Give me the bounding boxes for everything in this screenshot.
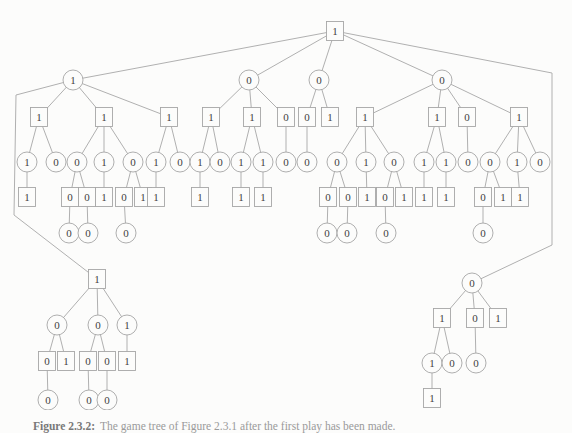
circle-node-q2a: 0 <box>466 353 486 373</box>
square-node-a1x1: 1 <box>19 188 36 207</box>
node-value-label: 0 <box>177 156 183 168</box>
square-node-d4x1: 0 <box>475 188 492 207</box>
circle-node-d2y: 1 <box>436 152 456 172</box>
square-node-c2: 1 <box>322 108 339 127</box>
node-value-label: 0 <box>304 156 310 168</box>
node-value-label: 0 <box>283 156 289 168</box>
square-node-d1x2: 0 <box>340 188 357 207</box>
tree-edge <box>442 80 519 117</box>
circle-node-a1x: 1 <box>17 152 37 172</box>
square-node-d2x1: 1 <box>416 188 433 207</box>
square-node-d4x2: 1 <box>495 188 512 207</box>
node-value-label: 0 <box>334 156 340 168</box>
square-node-q3: 1 <box>490 309 507 328</box>
square-node-m1: 1 <box>89 270 106 289</box>
circle-node-d1z1c: 0 <box>376 223 396 243</box>
tree-edge <box>335 31 442 80</box>
circle-node-a3y: 0 <box>170 152 190 172</box>
square-node-m1b2: 0 <box>99 352 116 371</box>
node-value-label: 0 <box>325 191 331 203</box>
node-value-label: 1 <box>153 191 159 203</box>
square-node-q1a1: 1 <box>424 389 441 408</box>
node-value-label: 0 <box>344 227 350 239</box>
square-node-d1z1: 0 <box>377 188 394 207</box>
node-value-label: 0 <box>123 227 129 239</box>
circle-node-d1y: 1 <box>356 152 376 172</box>
node-value-label: 0 <box>449 357 455 369</box>
square-node-m1a1: 0 <box>39 352 56 371</box>
node-value-label: 1 <box>24 191 30 203</box>
node-value-label: 0 <box>464 111 470 123</box>
figure-caption: Figure 2.3.2:The game tree of Figure 2.3… <box>33 419 553 433</box>
node-value-label: 0 <box>121 191 127 203</box>
circle-node-d4y: 1 <box>507 152 527 172</box>
node-value-label: 0 <box>469 277 475 289</box>
node-value-label: 0 <box>472 312 478 324</box>
square-node-d1: 1 <box>357 108 374 127</box>
square-node-d1z2: 1 <box>396 188 413 207</box>
square-node-c1: 0 <box>299 108 316 127</box>
square-node-m1c1: 1 <box>119 352 136 371</box>
node-value-label: 1 <box>327 111 333 123</box>
circle-node-q1b: 0 <box>442 353 462 373</box>
circle-node-b1x: 1 <box>190 152 210 172</box>
node-value-label: 1 <box>443 191 449 203</box>
node-value-label: 1 <box>421 156 427 168</box>
circle-node-b3x: 0 <box>276 152 296 172</box>
node-value-label: 0 <box>283 111 289 123</box>
node-value-label: 0 <box>217 156 223 168</box>
node-value-label: 0 <box>304 111 310 123</box>
circle-node-d1z: 0 <box>384 152 404 172</box>
square-node-b1: 1 <box>203 108 220 127</box>
square-node-d4y1: 1 <box>512 188 529 207</box>
square-node-R: 1 <box>327 22 344 41</box>
node-value-label: 1 <box>94 273 100 285</box>
node-value-label: 1 <box>238 156 244 168</box>
node-value-label: 0 <box>439 74 445 86</box>
circle-node-m1a1c: 0 <box>38 390 58 410</box>
circle-node-d3x: 0 <box>458 152 478 172</box>
square-node-m1a2: 1 <box>58 352 75 371</box>
node-value-label: 1 <box>101 111 107 123</box>
node-value-label: 1 <box>401 191 407 203</box>
node-value-label: 1 <box>197 156 203 168</box>
node-value-label: 1 <box>260 156 266 168</box>
node-value-label: 0 <box>480 191 486 203</box>
tree-canvas: 1100011111001110110010101011000101100101… <box>0 0 572 410</box>
circle-node-m1b: 0 <box>88 315 108 335</box>
node-value-label: 1 <box>101 156 107 168</box>
square-node-a3x1: 1 <box>148 188 165 207</box>
node-value-label: 1 <box>166 111 172 123</box>
node-value-label: 0 <box>44 355 50 367</box>
node-value-label: 1 <box>514 156 520 168</box>
node-value-label: 0 <box>391 156 397 168</box>
node-value-label: 1 <box>63 355 69 367</box>
circle-node-b1y: 0 <box>210 152 230 172</box>
node-value-label: 0 <box>45 394 51 406</box>
node-value-label: 1 <box>495 312 501 324</box>
square-node-b2x1: 1 <box>233 188 250 207</box>
circle-node-a2y: 1 <box>94 152 114 172</box>
node-value-label: 1 <box>153 156 159 168</box>
node-value-label: 0 <box>85 355 91 367</box>
square-node-a2z1: 0 <box>116 188 133 207</box>
node-value-label: 1 <box>364 191 370 203</box>
square-node-b1x1: 1 <box>192 188 209 207</box>
node-value-label: 0 <box>66 227 72 239</box>
node-value-label: 1 <box>421 191 427 203</box>
circle-node-d4x: 0 <box>480 152 500 172</box>
circle-node-a2x2c: 0 <box>78 223 98 243</box>
square-node-a2x1: 0 <box>62 188 79 207</box>
circle-node-b2x: 1 <box>231 152 251 172</box>
square-node-a2: 1 <box>96 108 113 127</box>
circle-node-m1c: 1 <box>117 315 137 335</box>
node-value-label: 1 <box>249 111 255 123</box>
node-value-label: 0 <box>383 227 389 239</box>
figure-caption-text: The game tree of Figure 2.3.1 after the … <box>100 420 395 432</box>
tree-edge <box>73 80 169 117</box>
circle-node-n0a: 0 <box>239 70 259 90</box>
square-node-d1x1: 0 <box>320 188 337 207</box>
node-value-label: 0 <box>84 191 90 203</box>
node-value-label: 0 <box>537 156 543 168</box>
circle-node-d1x1c: 0 <box>317 223 337 243</box>
